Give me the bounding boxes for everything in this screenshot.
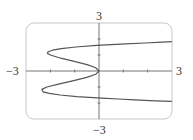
x-min-label: −3 — [6, 65, 19, 77]
x-max-label: 3 — [176, 65, 182, 77]
y-min-label: −3 — [93, 124, 106, 136]
y-max-label: 3 — [96, 10, 102, 22]
curve-line — [42, 42, 172, 102]
